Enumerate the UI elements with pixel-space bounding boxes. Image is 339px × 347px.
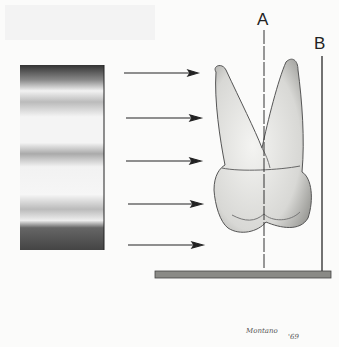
- label-a: A: [257, 10, 268, 30]
- tooth: [214, 59, 311, 232]
- drawing: [0, 0, 339, 347]
- signature: Montano: [246, 327, 278, 335]
- smudge: [5, 5, 155, 40]
- label-b: B: [314, 34, 325, 54]
- arrows: [124, 70, 203, 248]
- signature-year: '69: [288, 333, 299, 341]
- film-strip: [20, 65, 104, 250]
- base-plate: [155, 271, 331, 278]
- illustration: A B Montano '69: [0, 0, 339, 347]
